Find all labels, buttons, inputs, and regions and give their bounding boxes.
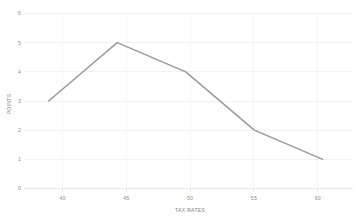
y-tick-label-4: 4 — [18, 69, 21, 75]
y-tick-label-6: 6 — [18, 10, 21, 16]
x-tick-label-45: 45 — [123, 195, 129, 201]
y-tick-label-2: 2 — [18, 127, 21, 133]
chart-background — [0, 0, 362, 221]
y-tick-label-3: 3 — [18, 98, 21, 104]
chart-canvas: 6 5 4 3 2 1 0 40 45 50 55 60 TAX RATES P… — [0, 0, 362, 221]
x-tick-label-40: 40 — [59, 195, 65, 201]
y-tick-label-0: 0 — [18, 185, 21, 191]
x-tick-label-60: 60 — [315, 195, 321, 201]
y-axis-title: POINTS — [6, 93, 12, 114]
x-axis-title: TAX RATES — [175, 207, 206, 213]
y-tick-label-5: 5 — [18, 40, 21, 46]
x-tick-label-55: 55 — [251, 195, 257, 201]
line-chart: 6 5 4 3 2 1 0 40 45 50 55 60 TAX RATES P… — [0, 0, 362, 221]
y-tick-label-1: 1 — [18, 156, 21, 162]
x-tick-label-50: 50 — [187, 195, 193, 201]
